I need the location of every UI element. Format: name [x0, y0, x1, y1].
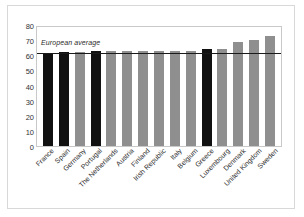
- bar: [265, 36, 275, 146]
- european-average-label: European average: [41, 39, 100, 46]
- y-axis: 80706050403020100: [12, 26, 34, 147]
- bar-slot: [135, 27, 151, 146]
- bar: [186, 51, 196, 146]
- bar-slot: [230, 27, 246, 146]
- chart-figure: 80706050403020100 European average Franc…: [0, 0, 304, 217]
- x-axis: FranceSpainGermanyPortugalThe Netherland…: [36, 147, 282, 213]
- y-axis-tick-20: 20: [26, 112, 34, 121]
- bar-slot: [103, 27, 119, 146]
- bar-slot: [214, 27, 230, 146]
- y-axis-tick-80: 80: [26, 22, 34, 31]
- bar-slot: [199, 27, 215, 146]
- bar-slot: [183, 27, 199, 146]
- european-average-line: [37, 53, 281, 54]
- bar-slot: [119, 27, 135, 146]
- y-axis-tick-10: 10: [26, 127, 34, 136]
- bar-slot: [167, 27, 183, 146]
- bar: [202, 49, 212, 146]
- bar: [217, 49, 227, 146]
- bar-slot: [246, 27, 262, 146]
- y-axis-tick-0: 0: [30, 143, 34, 152]
- bar: [233, 42, 243, 146]
- bar-slot: [151, 27, 167, 146]
- bar: [59, 52, 69, 146]
- bar: [43, 54, 53, 146]
- bar: [75, 52, 85, 146]
- bar: [154, 51, 164, 146]
- x-axis-label: France: [35, 147, 55, 167]
- y-axis-tick-70: 70: [26, 37, 34, 46]
- y-axis-tick-40: 40: [26, 82, 34, 91]
- bar: [170, 51, 180, 146]
- bar: [106, 51, 116, 146]
- bar: [249, 40, 259, 146]
- bar: [91, 51, 101, 146]
- y-axis-tick-50: 50: [26, 67, 34, 76]
- y-axis-tick-60: 60: [26, 52, 34, 61]
- bar: [122, 51, 132, 146]
- y-axis-tick-30: 30: [26, 97, 34, 106]
- bar: [138, 51, 148, 146]
- bar-slot: [262, 27, 278, 146]
